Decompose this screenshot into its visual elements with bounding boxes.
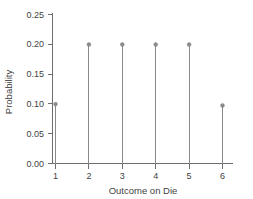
y-tick-label-0: 0.00 [26,159,44,169]
y-tick-label-2: 0.10 [26,99,44,109]
stem-marker-3 [120,43,124,47]
stem-marker-6 [221,104,225,108]
x-tick-label-6: 6 [220,171,225,181]
x-tick-label-3: 3 [120,171,125,181]
stem-marker-2 [87,43,91,47]
stem-marker-1 [54,102,58,106]
x-tick-label-1: 1 [53,171,58,181]
y-tick-label-4: 0.20 [26,39,44,49]
y-tick-label-5: 0.25 [26,10,44,20]
x-axis-title: Outcome on Die [109,185,178,196]
x-tick-label-4: 4 [153,171,158,181]
x-tick-label-2: 2 [86,171,91,181]
stem-marker-5 [187,43,191,47]
stem-marker-4 [154,43,158,47]
y-axis-title: Probability [3,70,14,115]
y-tick-label-1: 0.05 [26,129,44,139]
y-tick-label-3: 0.15 [26,69,44,79]
chart-container: 0.00 0.05 0.10 0.15 0.20 0.25 1 2 3 4 5 … [0,0,253,199]
probability-stem-chart: 0.00 0.05 0.10 0.15 0.20 0.25 1 2 3 4 5 … [0,0,253,199]
x-tick-label-5: 5 [187,171,192,181]
